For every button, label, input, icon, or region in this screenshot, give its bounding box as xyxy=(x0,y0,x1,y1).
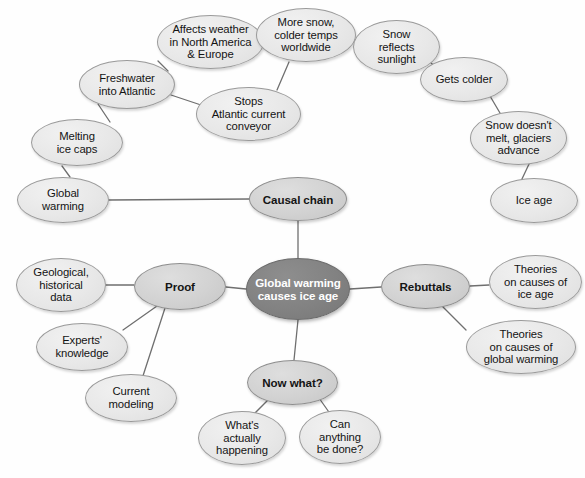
node-label-stops: Stops Atlantic current conveyor xyxy=(207,95,291,133)
edge-freshwater-to-stops xyxy=(171,95,201,105)
node-label-snowreflects: Snow reflects sunlight xyxy=(372,28,420,66)
node-experts[interactable]: Experts' knowledge xyxy=(36,323,128,371)
node-label-modeling: Current modeling xyxy=(103,385,158,410)
node-theoriesice[interactable]: Theories on causes of ice age xyxy=(489,255,582,309)
node-label-getscolder: Gets colder xyxy=(431,73,498,86)
node-label-globalwarming: Global warming xyxy=(37,187,89,212)
node-label-geological: Geological, historical data xyxy=(28,266,93,304)
node-label-causal: Causal chain xyxy=(258,193,338,206)
node-cananything[interactable]: Can anything be done? xyxy=(299,410,381,464)
edge-rebuttals-to-theoriesice xyxy=(470,285,489,286)
node-geological[interactable]: Geological, historical data xyxy=(16,258,106,312)
edge-center-to-proof xyxy=(226,287,246,289)
node-snowdoesnt[interactable]: Snow doesn't melt, glaciers advance xyxy=(470,111,567,165)
node-iceage[interactable]: Ice age xyxy=(490,178,578,223)
node-nowwhat[interactable]: Now what? xyxy=(247,360,338,405)
node-moresnow[interactable]: More snow, colder temps worldwide xyxy=(256,8,356,62)
edge-proof-to-experts xyxy=(123,306,157,330)
edge-getscolder-to-snowdoesnt xyxy=(490,96,500,113)
edge-center-to-nowwhat xyxy=(294,320,298,360)
edge-causal-to-globalwarming xyxy=(109,199,249,200)
node-label-affects: Affects weather in North America & Europ… xyxy=(165,23,257,61)
node-theorieswarm[interactable]: Theories on causes of global warming xyxy=(466,320,576,374)
node-rebuttals[interactable]: Rebuttals xyxy=(381,264,470,309)
node-label-cananything: Can anything be done? xyxy=(312,418,368,456)
node-freshwater[interactable]: Freshwater into Atlantic xyxy=(79,60,175,109)
mind-map-canvas: Global warming causes ice ageCausal chai… xyxy=(0,0,585,478)
node-meltingice[interactable]: Melting ice caps xyxy=(31,119,123,166)
node-proof[interactable]: Proof xyxy=(134,263,226,310)
edge-proof-to-modeling xyxy=(141,308,165,382)
node-label-theorieswarm: Theories on causes of global warming xyxy=(479,328,564,366)
node-label-freshwater: Freshwater into Atlantic xyxy=(94,72,160,97)
edge-center-to-rebuttals xyxy=(350,287,381,289)
node-label-moresnow: More snow, colder temps worldwide xyxy=(269,16,342,54)
edge-globalwarming-to-meltingice xyxy=(62,166,70,177)
node-getscolder[interactable]: Gets colder xyxy=(420,57,508,102)
node-label-center: Global warming causes ice age xyxy=(250,276,346,302)
node-label-snowdoesnt: Snow doesn't melt, glaciers advance xyxy=(480,119,556,157)
node-label-whatsactually: What's actually happening xyxy=(211,419,273,457)
edge-rebuttals-to-theorieswarm xyxy=(442,306,466,330)
node-globalwarming[interactable]: Global warming xyxy=(17,177,109,223)
edge-stops-to-moresnow xyxy=(277,62,289,90)
node-label-meltingice: Melting ice caps xyxy=(52,130,103,155)
node-label-experts: Experts' knowledge xyxy=(50,334,113,359)
node-label-theoriesice: Theories on causes of ice age xyxy=(499,263,572,301)
node-label-proof: Proof xyxy=(160,280,200,293)
node-label-iceage: Ice age xyxy=(511,194,557,207)
node-label-nowwhat: Now what? xyxy=(257,376,327,389)
node-causal[interactable]: Causal chain xyxy=(249,177,347,221)
node-modeling[interactable]: Current modeling xyxy=(85,374,177,422)
node-label-rebuttals: Rebuttals xyxy=(395,280,457,293)
node-affects[interactable]: Affects weather in North America & Europ… xyxy=(157,15,264,69)
node-stops[interactable]: Stops Atlantic current conveyor xyxy=(196,87,301,141)
node-center[interactable]: Global warming causes ice age xyxy=(246,258,350,320)
node-whatsactually[interactable]: What's actually happening xyxy=(198,411,286,465)
